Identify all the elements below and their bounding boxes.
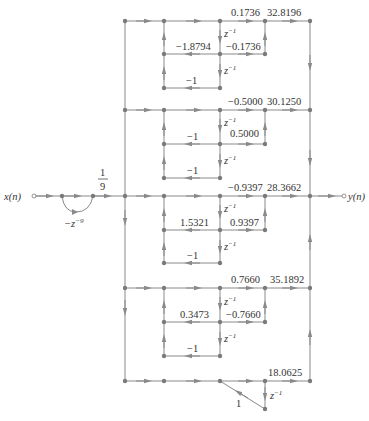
section-4: 0.7660 35.1892 0.3473 −0.7660 −1 z−1 z−1 bbox=[125, 274, 310, 356]
section-5-coef: 1 bbox=[236, 398, 241, 409]
section-2-cross-coef: 0.5000 bbox=[230, 128, 259, 139]
section-1-cross-coef: −0.1736 bbox=[226, 41, 261, 52]
delay-label: z−1 bbox=[269, 389, 282, 401]
delay-label: z−1 bbox=[223, 295, 236, 307]
delay-label: z−1 bbox=[223, 154, 236, 166]
section-3-cross-coef: 0.9397 bbox=[230, 217, 259, 228]
section-2-a2: −1 bbox=[187, 165, 198, 176]
output-label: y(n) bbox=[347, 191, 365, 203]
section-4-out-coef: 0.7660 bbox=[231, 274, 260, 285]
section-3-out-coef: −0.9397 bbox=[228, 182, 263, 193]
section-3: −0.9397 28.3662 1.5321 0.9397 −1 z−1 z−1 bbox=[125, 182, 310, 263]
section-5: 18.0625 1 z−1 bbox=[125, 367, 310, 409]
delay-label: z−1 bbox=[223, 202, 236, 214]
section-2-out-coef: −0.5000 bbox=[228, 96, 263, 107]
delay-label: z−1 bbox=[223, 27, 236, 39]
section-2-gain: 30.1250 bbox=[267, 96, 301, 107]
section-1-a1: −1.8794 bbox=[176, 41, 212, 52]
delay-label: z−1 bbox=[223, 64, 236, 76]
section-1-out-coef: 0.1736 bbox=[231, 7, 260, 18]
section-3-gain: 28.3662 bbox=[267, 182, 301, 193]
section-3-a2: −1 bbox=[187, 250, 198, 261]
svg-text:1: 1 bbox=[100, 167, 105, 178]
section-3-a1: 1.5321 bbox=[180, 217, 209, 228]
input-path bbox=[34, 196, 125, 215]
section-2: −0.5000 30.1250 −1 0.5000 −1 z−1 z−1 bbox=[125, 96, 310, 178]
section-1: 0.1736 32.8196 −1.8794 −0.1736 −1 z−1 z−… bbox=[125, 7, 310, 88]
comb-gain-label: −z−9 bbox=[64, 217, 84, 229]
section-4-gain: 35.1892 bbox=[270, 274, 304, 285]
section-5-gain: 18.0625 bbox=[268, 367, 302, 378]
scale-factor: 1 9 bbox=[98, 167, 108, 192]
input-label: x(n) bbox=[3, 191, 21, 203]
signal-flow-graph: 0.1736 32.8196 −1.8794 −0.1736 −1 z−1 z−… bbox=[0, 0, 369, 421]
section-4-a1: 0.3473 bbox=[180, 309, 209, 320]
section-4-a2: −1 bbox=[187, 343, 198, 354]
section-1-gain: 32.8196 bbox=[267, 7, 301, 18]
delay-label: z−1 bbox=[223, 332, 236, 344]
delay-label: z−1 bbox=[223, 240, 236, 252]
section-4-cross-coef: −0.7660 bbox=[226, 309, 261, 320]
svg-text:9: 9 bbox=[100, 181, 105, 192]
section-2-a1: −1 bbox=[187, 131, 198, 142]
section-1-a2: −1 bbox=[186, 75, 197, 86]
delay-label: z−1 bbox=[223, 116, 236, 128]
